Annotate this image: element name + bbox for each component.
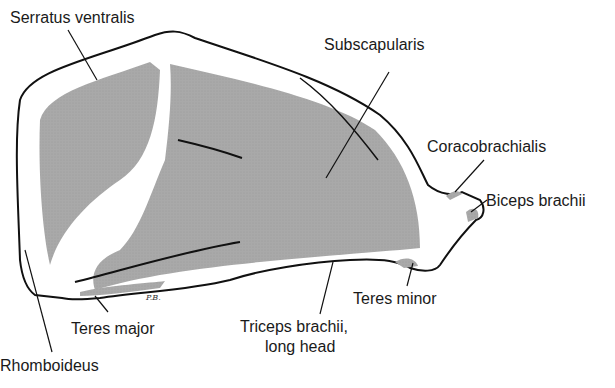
scapula-diagram: Serratus ventralis Subscapularis Coracob… — [0, 0, 615, 388]
artist-signature: P.B. — [146, 293, 161, 302]
label-serratus-ventralis: Serratus ventralis — [10, 9, 135, 27]
label-subscapularis: Subscapularis — [324, 36, 425, 54]
label-coracobrachialis: Coracobrachialis — [427, 138, 546, 156]
label-triceps-brachii: Triceps brachii, — [240, 318, 348, 336]
label-teres-minor: Teres minor — [353, 290, 437, 308]
label-teres-major: Teres major — [71, 320, 155, 338]
label-biceps-brachii: Biceps brachii — [486, 192, 586, 210]
label-long-head: long head — [265, 338, 335, 356]
label-rhomboideus: Rhomboideus — [0, 357, 99, 375]
